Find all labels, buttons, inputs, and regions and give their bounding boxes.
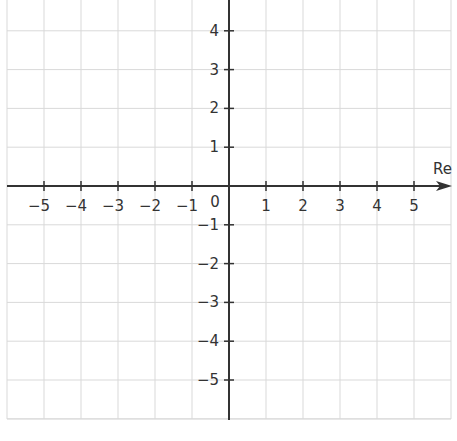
x-tick-label: −4	[65, 197, 87, 215]
x-tick-label: 1	[261, 197, 271, 215]
y-tick-label: −4	[197, 332, 219, 350]
tick-labels: −5−4−3−2−1123454321−1−2−3−4−5	[28, 22, 419, 389]
x-tick-label: −3	[102, 197, 124, 215]
x-tick-label: 5	[409, 197, 419, 215]
real-axis-label: Re	[433, 160, 452, 178]
x-tick-label: −1	[176, 197, 198, 215]
origin-label: 0	[210, 193, 220, 211]
y-tick-label: 3	[209, 61, 219, 79]
y-tick-label: 2	[209, 99, 219, 117]
y-tick-label: −2	[197, 255, 219, 273]
y-tick-label: 4	[209, 22, 219, 40]
x-tick-label: 4	[372, 197, 382, 215]
y-tick-label: 1	[209, 138, 219, 156]
y-tick-label: −5	[197, 371, 219, 389]
complex-plane: −5−4−3−2−1123454321−1−2−3−4−5 0 Re	[0, 0, 457, 441]
x-tick-label: 3	[335, 197, 345, 215]
x-tick-label: −2	[139, 197, 161, 215]
y-tick-label: −3	[197, 293, 219, 311]
x-tick-label: −5	[28, 197, 50, 215]
x-tick-label: 2	[298, 197, 308, 215]
y-tick-label: −1	[197, 216, 219, 234]
